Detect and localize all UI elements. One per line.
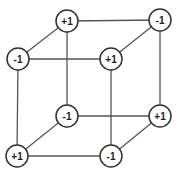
node-bottom-front-left: +1 bbox=[6, 145, 28, 167]
cube-diagram: +1-1-1+1-1+1+1-1 bbox=[0, 0, 179, 174]
cube-nodes: +1-1-1+1-1+1+1-1 bbox=[6, 9, 171, 167]
node-bottom-back-right: +1 bbox=[149, 105, 171, 127]
node-bottom-front-right: -1 bbox=[100, 145, 122, 167]
node-label: -1 bbox=[14, 54, 23, 65]
node-bottom-back-left: -1 bbox=[56, 105, 78, 127]
node-label: +1 bbox=[61, 16, 73, 27]
node-top-back-left: +1 bbox=[56, 10, 78, 32]
node-label: +1 bbox=[105, 54, 117, 65]
edge-top-back-left-to-top-back-right bbox=[67, 20, 160, 21]
node-label: -1 bbox=[63, 111, 72, 122]
node-label: +1 bbox=[11, 151, 23, 162]
edge-top-front-left-to-bottom-front-left bbox=[17, 59, 18, 156]
node-top-front-left: -1 bbox=[7, 48, 29, 70]
node-top-back-right: -1 bbox=[149, 9, 171, 31]
node-label: +1 bbox=[154, 111, 166, 122]
node-label: -1 bbox=[156, 15, 165, 26]
cube-edges bbox=[17, 20, 160, 156]
node-label: -1 bbox=[107, 151, 116, 162]
node-top-front-right: +1 bbox=[100, 48, 122, 70]
